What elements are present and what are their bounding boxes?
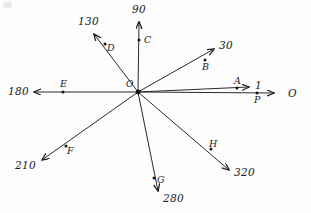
origin-dot bbox=[136, 90, 141, 95]
ray-line-1 bbox=[138, 87, 249, 92]
point-label-H: H bbox=[209, 139, 217, 149]
bearing-label-320: 320 bbox=[234, 167, 255, 178]
point-dot-C bbox=[138, 39, 141, 42]
point-label-D: D bbox=[107, 43, 115, 53]
bearing-label-30: 30 bbox=[219, 40, 233, 51]
ray-line-210 bbox=[42, 92, 138, 160]
ray-line-0 bbox=[138, 92, 274, 93]
bearing-label-210: 210 bbox=[15, 160, 36, 171]
ray-line-90 bbox=[138, 22, 139, 92]
point-label-B: B bbox=[202, 62, 209, 72]
ray-points bbox=[62, 39, 259, 180]
point-label-A: A bbox=[234, 76, 241, 86]
point-label-P: P bbox=[254, 95, 260, 105]
point-dot-G bbox=[153, 177, 156, 180]
rays-svg bbox=[0, 0, 311, 213]
bearing-label-130: 130 bbox=[78, 16, 99, 27]
bearing-label-180: 180 bbox=[8, 86, 29, 97]
bearing-label-1: 1 bbox=[255, 80, 262, 91]
bearing-label-90: 90 bbox=[132, 4, 146, 15]
diagram-canvas: O O 1 30 90 130 180 210 280 320 P A B C … bbox=[0, 0, 311, 213]
origin-label: O bbox=[126, 80, 133, 89]
point-label-E: E bbox=[60, 79, 67, 89]
point-label-C: C bbox=[144, 35, 151, 45]
point-label-G: G bbox=[157, 175, 165, 185]
point-dot-E bbox=[62, 91, 65, 94]
bearing-label-280: 280 bbox=[163, 193, 184, 204]
point-dot-A bbox=[236, 87, 239, 90]
bearing-label-0: O bbox=[288, 88, 297, 99]
point-label-F: F bbox=[67, 146, 74, 156]
